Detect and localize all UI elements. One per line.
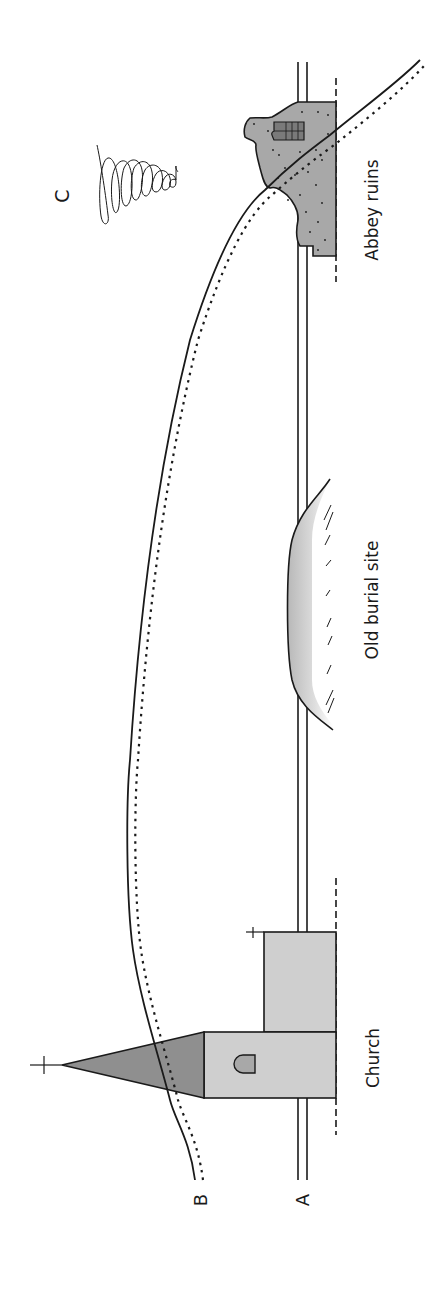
label-line-b: B — [190, 1194, 211, 1206]
label-church: Church — [363, 1028, 383, 1088]
spiral-c — [97, 145, 178, 224]
ley-line-diagram: C B A Church Old burial site Abbey ruins — [0, 0, 430, 1292]
label-abbey-ruins: Abbey ruins — [362, 159, 382, 260]
church — [30, 927, 336, 1098]
burial-mound — [288, 479, 335, 730]
label-point-c: C — [51, 189, 73, 202]
label-burial-site: Old burial site — [362, 541, 382, 660]
label-line-a: A — [292, 1193, 313, 1206]
